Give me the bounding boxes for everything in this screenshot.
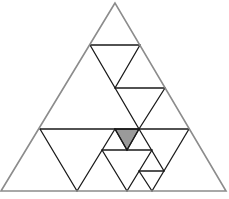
diag-12: [139, 171, 152, 191]
diag-3: [139, 88, 165, 129]
diag-long-1: [90, 45, 139, 129]
outer-triangle: [1, 3, 226, 191]
shaded-triangle: [115, 129, 139, 150]
diagram-canvas: [0, 0, 229, 199]
diag-5: [77, 129, 115, 191]
diag-9: [102, 150, 127, 191]
diag-2: [115, 45, 140, 88]
diag-4: [40, 129, 77, 191]
inner-lines: [40, 45, 189, 191]
subdivided-triangle-diagram: [0, 0, 229, 199]
